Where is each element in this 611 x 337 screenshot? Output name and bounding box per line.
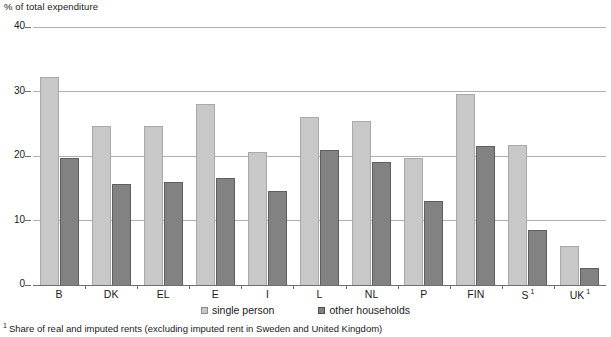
y-tick-label-40: 40 xyxy=(14,20,25,31)
bar-i-single-person xyxy=(248,152,267,286)
y-tick-mark-30 xyxy=(25,91,31,92)
x-axis-label-s: S1 xyxy=(521,288,534,301)
bar-l-single-person xyxy=(300,117,319,285)
y-tick-label-20: 20 xyxy=(14,149,25,160)
y-tick-mark-10 xyxy=(25,220,31,221)
bar-uk-other-households xyxy=(580,268,599,285)
x-axis-label-text: L xyxy=(317,288,323,300)
legend-label: other households xyxy=(329,304,410,316)
y-tick-mark-40 xyxy=(25,27,31,28)
legend-swatch-icon xyxy=(318,307,325,314)
bar-b-single-person xyxy=(40,77,59,285)
bar-nl-single-person xyxy=(352,121,371,285)
y-tick-mark-0 xyxy=(25,285,31,286)
x-axis-label-text: P xyxy=(420,288,427,300)
bar-group-dk xyxy=(92,27,131,285)
x-axis-label-text: S xyxy=(521,289,528,301)
bar-e-other-households xyxy=(216,178,235,285)
y-tick-mark-20 xyxy=(25,156,31,157)
x-axis-label-el: EL xyxy=(157,288,170,300)
bar-el-single-person xyxy=(144,126,163,285)
x-axis-label-i: I xyxy=(266,288,269,300)
y-axis-tick-labels: 010203040 xyxy=(0,27,25,285)
bar-s-other-households xyxy=(528,230,547,285)
bar-dk-other-households xyxy=(112,184,131,285)
bar-group-i xyxy=(248,27,287,285)
legend-label: single person xyxy=(212,304,274,316)
chart-legend: single personother households xyxy=(0,304,611,316)
bar-nl-other-households xyxy=(372,162,391,285)
x-axis-label-text: E xyxy=(212,288,219,300)
bar-group-fin xyxy=(456,27,495,285)
x-axis-label-e: E xyxy=(212,288,219,300)
bar-fin-single-person xyxy=(456,94,475,285)
x-axis-label-l: L xyxy=(317,288,323,300)
bar-fin-other-households xyxy=(476,146,495,285)
legend-swatch-icon xyxy=(201,307,208,314)
bar-p-other-households xyxy=(424,201,443,285)
bar-uk-single-person xyxy=(560,246,579,285)
x-axis-label-b: B xyxy=(56,288,63,300)
x-axis-label-fin: FIN xyxy=(467,288,484,300)
plot-area xyxy=(33,27,606,285)
bar-p-single-person xyxy=(404,158,423,285)
bar-chart: % of total expenditure 010203040 BDKELEI… xyxy=(0,0,611,337)
legend-item-other-households[interactable]: other households xyxy=(318,304,410,316)
x-axis-label-nl: NL xyxy=(365,288,378,300)
x-axis-label-text: NL xyxy=(365,288,378,300)
bar-b-other-households xyxy=(60,158,79,285)
x-axis-label-footnote-marker: 1 xyxy=(530,288,534,295)
bar-e-single-person xyxy=(196,104,215,285)
y-axis-title: % of total expenditure xyxy=(4,1,98,12)
bar-i-other-households xyxy=(268,191,287,285)
x-axis-label-text: B xyxy=(56,288,63,300)
x-axis-label-text: UK xyxy=(570,289,585,301)
x-axis-label-p: P xyxy=(420,288,427,300)
bar-group-s xyxy=(508,27,547,285)
x-axis-label-footnote-marker: 1 xyxy=(586,288,590,295)
bar-group-l xyxy=(300,27,339,285)
chart-footnote: 1Share of real and imputed rents (exclud… xyxy=(3,322,382,334)
bar-group-el xyxy=(144,27,183,285)
bar-group-e xyxy=(196,27,235,285)
bar-group-b xyxy=(40,27,79,285)
y-tick-label-10: 10 xyxy=(14,214,25,225)
x-axis-label-text: DK xyxy=(104,288,119,300)
x-axis-label-uk: UK1 xyxy=(570,288,591,301)
bar-group-p xyxy=(404,27,443,285)
footnote-marker: 1 xyxy=(3,322,7,329)
footnote-text: Share of real and imputed rents (excludi… xyxy=(9,323,382,334)
bar-s-single-person xyxy=(508,145,527,285)
x-axis-label-text: I xyxy=(266,288,269,300)
x-axis-label-dk: DK xyxy=(104,288,119,300)
bar-group-uk xyxy=(560,27,599,285)
bar-el-other-households xyxy=(164,182,183,285)
x-axis-label-text: EL xyxy=(157,288,170,300)
bar-dk-single-person xyxy=(92,126,111,285)
x-axis-label-text: FIN xyxy=(467,288,484,300)
y-tick-label-30: 30 xyxy=(14,85,25,96)
y-tick-label-0: 0 xyxy=(19,278,25,289)
bar-l-other-households xyxy=(320,150,339,285)
bar-group-nl xyxy=(352,27,391,285)
legend-item-single-person[interactable]: single person xyxy=(201,304,274,316)
